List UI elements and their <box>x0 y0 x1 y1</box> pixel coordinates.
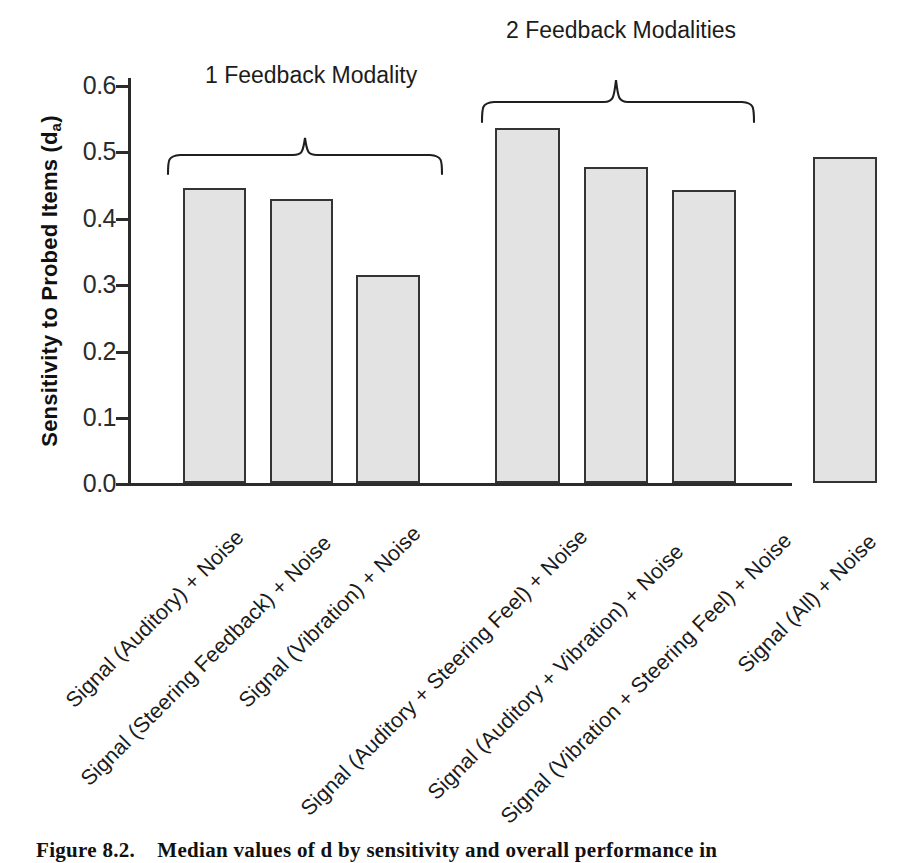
y-tick-mark-6 <box>116 85 129 88</box>
y-tick-label-4: 0.4 <box>52 204 116 233</box>
y-tick-mark-1 <box>116 417 129 420</box>
y-tick-mark-5 <box>116 151 129 154</box>
group-annotation-label-2: 2 Feedback Modalities <box>506 17 736 44</box>
x-axis-line <box>116 483 792 486</box>
y-tick-label-6: 0.6 <box>52 71 116 100</box>
x-tick-label-0: Signal (Auditory) + Noise <box>61 525 249 713</box>
y-axis-title-tail: ) <box>37 115 62 123</box>
bar-4[interactable] <box>584 167 648 483</box>
bar-5[interactable] <box>672 190 736 483</box>
y-tick-mark-3 <box>116 284 129 287</box>
figure-caption-text: Median values of d by sensitivity and ov… <box>157 838 717 862</box>
bar-0[interactable] <box>183 188 246 483</box>
y-tick-label-3: 0.3 <box>52 270 116 299</box>
group-brace-1 <box>160 108 450 174</box>
bar-3[interactable] <box>495 128 560 483</box>
y-tick-mark-4 <box>116 218 129 221</box>
bar-2[interactable] <box>356 275 420 483</box>
y-tick-mark-0 <box>116 483 129 486</box>
y-tick-mark-2 <box>116 351 129 354</box>
y-tick-label-1: 0.1 <box>52 403 116 432</box>
y-tick-label-2: 0.2 <box>52 337 116 366</box>
y-axis-line <box>128 78 131 485</box>
group-brace-2 <box>474 52 764 122</box>
group-annotation-label-1: 1 Feedback Modality <box>205 62 417 89</box>
y-tick-label-0: 0.0 <box>52 469 116 498</box>
y-tick-label-5: 0.5 <box>52 137 116 166</box>
y-axis-title-subscript: a <box>47 123 64 132</box>
bar-1[interactable] <box>270 199 333 483</box>
figure-caption-label: Figure 8.2. <box>36 838 135 862</box>
bar-6[interactable] <box>813 157 877 483</box>
figure-caption: Figure 8.2. Median values of d by sensit… <box>36 838 881 863</box>
